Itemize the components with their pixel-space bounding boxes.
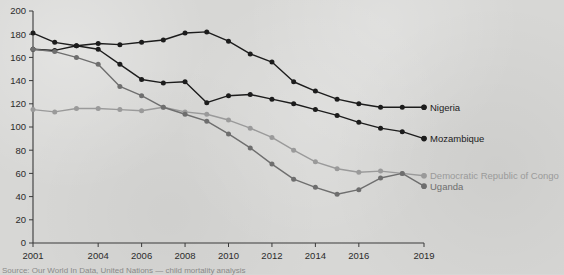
data-point xyxy=(313,89,318,94)
data-point xyxy=(74,55,79,60)
data-point xyxy=(52,109,57,114)
data-point xyxy=(161,105,166,110)
data-point xyxy=(291,148,296,153)
data-point xyxy=(335,97,340,102)
data-point xyxy=(291,101,296,106)
source-note: Source: Our World In Data, United Nation… xyxy=(2,266,246,275)
data-point xyxy=(226,131,231,136)
data-point xyxy=(400,129,405,134)
y-axis-tick-label: 80 xyxy=(15,145,26,156)
data-point xyxy=(117,107,122,112)
data-point xyxy=(139,77,144,82)
data-point xyxy=(204,100,209,105)
x-axis-tick-label: 2019 xyxy=(413,250,434,261)
data-point xyxy=(117,84,122,89)
chart-legend: NigeriaMozambiqueDemocratic Republic of … xyxy=(421,102,559,192)
data-point xyxy=(356,187,361,192)
x-axis-tick-label: 2001 xyxy=(22,250,43,261)
data-point xyxy=(356,120,361,125)
data-point xyxy=(226,93,231,98)
data-point xyxy=(31,107,36,112)
data-point xyxy=(335,192,340,197)
y-axis-tick-label: 160 xyxy=(10,52,26,63)
data-point xyxy=(96,47,101,52)
data-point xyxy=(313,185,318,190)
data-point xyxy=(96,41,101,46)
data-point xyxy=(226,39,231,44)
data-point xyxy=(356,170,361,175)
y-axis-tick-label: 0 xyxy=(21,237,26,248)
data-point xyxy=(96,62,101,67)
legend-label: Mozambique xyxy=(430,133,484,144)
data-point xyxy=(31,31,36,36)
legend-label: Uganda xyxy=(430,181,464,192)
data-point xyxy=(139,108,144,113)
legend-marker xyxy=(421,136,427,142)
y-axis-tick-label: 40 xyxy=(15,191,26,202)
x-axis-tick-label: 2016 xyxy=(348,250,369,261)
y-axis-tick-label: 180 xyxy=(10,29,26,40)
legend-marker xyxy=(421,104,427,110)
x-axis-tick-label: 2006 xyxy=(131,250,152,261)
data-point xyxy=(204,112,209,117)
data-point xyxy=(248,145,253,150)
data-point xyxy=(74,43,79,48)
data-point xyxy=(74,106,79,111)
data-series-group xyxy=(31,29,427,196)
data-point xyxy=(161,80,166,85)
data-point xyxy=(96,106,101,111)
data-point xyxy=(248,126,253,131)
y-axis-tick-label: 120 xyxy=(10,98,26,109)
data-point xyxy=(52,49,57,54)
x-axis-tick-label: 2012 xyxy=(261,250,282,261)
data-point xyxy=(248,51,253,56)
data-point xyxy=(31,47,36,52)
legend-marker xyxy=(421,173,427,179)
data-point xyxy=(117,42,122,47)
data-point xyxy=(400,171,405,176)
data-point xyxy=(52,40,57,45)
data-point xyxy=(117,62,122,67)
data-point xyxy=(291,79,296,84)
legend-marker xyxy=(421,183,427,189)
series-line xyxy=(33,46,424,139)
y-axis-tick-label: 60 xyxy=(15,168,26,179)
y-axis-tick-label: 200 xyxy=(10,5,26,16)
data-point xyxy=(183,79,188,84)
y-axis-tick-label: 100 xyxy=(10,121,26,132)
data-point xyxy=(139,93,144,98)
x-axis-tick-label: 2014 xyxy=(305,250,326,261)
data-point xyxy=(291,177,296,182)
data-point xyxy=(378,105,383,110)
legend-label: Nigeria xyxy=(430,102,461,113)
data-point xyxy=(335,166,340,171)
data-point xyxy=(248,92,253,97)
data-point xyxy=(378,126,383,131)
data-point xyxy=(313,159,318,164)
data-point xyxy=(183,112,188,117)
legend-label: Democratic Republic of Congo xyxy=(430,170,559,181)
data-point xyxy=(313,107,318,112)
data-point xyxy=(378,169,383,174)
data-point xyxy=(356,101,361,106)
x-axis-tick-label: 2008 xyxy=(174,250,195,261)
data-point xyxy=(378,176,383,181)
data-point xyxy=(183,31,188,36)
data-point xyxy=(269,97,274,102)
y-axis-tick-label: 20 xyxy=(15,214,26,225)
data-point xyxy=(204,119,209,124)
data-point xyxy=(400,105,405,110)
data-point xyxy=(269,60,274,65)
data-point xyxy=(269,135,274,140)
y-axis: 020406080100120140160180200 xyxy=(10,5,33,248)
x-axis-tick-label: 2010 xyxy=(218,250,239,261)
data-point xyxy=(139,40,144,45)
data-point xyxy=(335,113,340,118)
y-axis-tick-label: 140 xyxy=(10,75,26,86)
data-point xyxy=(226,118,231,123)
x-axis: 200120042006200820102012201420162019 xyxy=(22,243,434,261)
x-axis-tick-label: 2004 xyxy=(88,250,109,261)
data-point xyxy=(161,38,166,43)
